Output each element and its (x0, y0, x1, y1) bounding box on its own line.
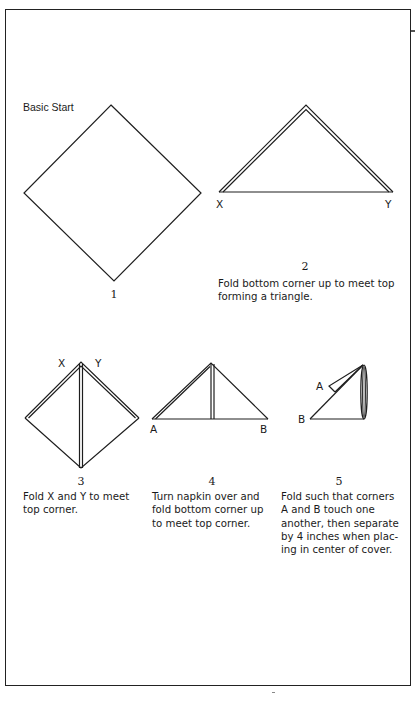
figure-5-cone (310, 365, 367, 419)
section-title: Basic Start (23, 101, 74, 114)
step-3-label-y: Y (95, 357, 101, 369)
step-1-number: 1 (104, 288, 124, 301)
step-3-caption: Fold X and Y to meet top corner. (23, 490, 129, 517)
step-2-label-y: Y (385, 198, 391, 210)
step-3-number: 3 (71, 475, 91, 488)
step-3-label-x: X (58, 357, 65, 369)
step-2-number: 2 (295, 260, 315, 273)
step-5-caption-line: ing in center of cover. (281, 543, 399, 556)
step-3-caption-line: top corner. (23, 503, 129, 516)
step-4-number: 4 (202, 475, 222, 488)
step-4-label-a: A (150, 423, 157, 435)
step-2-caption-line: forming a triangle. (218, 290, 394, 303)
step-2-caption-line: Fold bottom corner up to meet top (218, 277, 394, 290)
step-5-caption-line: Fold such that corners (281, 490, 399, 503)
step-5-caption-line: by 4 inches when plac- (281, 530, 399, 543)
figure-1-square (24, 105, 201, 281)
step-4-caption-line: fold bottom corner up (152, 503, 263, 516)
step-2-label-x: X (216, 198, 223, 210)
step-5-caption-line: another, then separate (281, 517, 399, 530)
step-2-caption: Fold bottom corner up to meet top formin… (218, 277, 394, 304)
step-4-caption-line: Turn napkin over and (152, 490, 263, 503)
step-5-label-a: A (316, 380, 323, 392)
step-5-number: 5 (329, 475, 349, 488)
figure-2-triangle (219, 105, 393, 192)
step-5-caption-line: A and B touch one (281, 503, 399, 516)
step-4-caption: Turn napkin over and fold bottom corner … (152, 490, 263, 530)
step-4-caption-line: to meet top corner. (152, 517, 263, 530)
figure-3-kite (25, 362, 139, 468)
step-5-label-b: B (298, 413, 305, 425)
figure-4-triangle (152, 363, 268, 419)
step-3-caption-line: Fold X and Y to meet (23, 490, 129, 503)
step-5-caption: Fold such that corners A and B touch one… (281, 490, 399, 556)
step-4-label-b: B (260, 423, 267, 435)
